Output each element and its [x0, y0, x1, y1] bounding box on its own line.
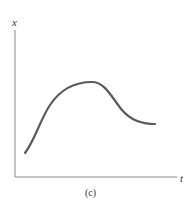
x-axis-label: t: [180, 172, 184, 184]
figure-caption: (c): [85, 187, 96, 199]
chart-figure: x t (c): [0, 0, 194, 211]
data-curve: [25, 82, 155, 153]
y-axis-label: x: [11, 16, 17, 28]
